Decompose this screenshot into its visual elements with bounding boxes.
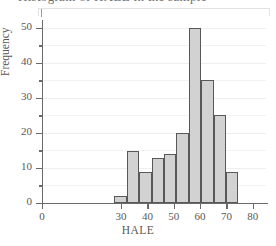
y-axis-tick-label: 20 (21, 125, 32, 137)
title-input-box (38, 8, 270, 16)
x-axis-tick (121, 204, 122, 209)
histogram-bar (176, 133, 188, 203)
y-axis-tick: 10 (36, 168, 42, 169)
y-axis-tick: 30 (36, 98, 42, 99)
y-axis-minor-tick (39, 185, 42, 186)
histogram-bar (189, 28, 201, 203)
x-axis-tick (200, 204, 201, 209)
x-axis-line (40, 203, 268, 204)
y-axis-minor-tick (39, 45, 42, 46)
y-axis-tick-label: 10 (21, 160, 32, 172)
x-axis-tick-label: 50 (168, 210, 179, 222)
clipped-title-text: Histogram of HALE in the sample (18, 0, 207, 5)
y-axis-minor-tick (39, 80, 42, 81)
y-axis-tick: 20 (36, 133, 42, 134)
x-axis-tick (226, 204, 227, 209)
x-axis-tick (253, 204, 254, 209)
gridline-major (42, 133, 266, 134)
plot-area (42, 22, 266, 203)
y-axis-tick-label: 50 (21, 20, 32, 32)
gridline-minor (42, 150, 266, 151)
y-axis-label: Frequency (0, 27, 11, 76)
histogram-bar (114, 196, 126, 203)
y-axis-tick-label: 40 (21, 55, 32, 67)
gridline-major (42, 63, 266, 64)
x-axis-tick (174, 204, 175, 209)
histogram-bar (152, 158, 164, 204)
y-axis-line (42, 20, 43, 205)
histogram-bar (201, 80, 213, 203)
x-axis-tick-label: 60 (195, 210, 206, 222)
y-axis-tick-label: 0 (27, 195, 33, 207)
y-axis-tick: 40 (36, 63, 42, 64)
histogram-bar (214, 115, 226, 203)
histogram-bar (226, 172, 238, 204)
histogram-bar (164, 154, 176, 203)
gridline-major (42, 98, 266, 99)
x-axis-tick-label: 70 (221, 210, 232, 222)
x-axis-tick-label: 30 (116, 210, 127, 222)
histogram-bar (139, 172, 151, 204)
x-axis-tick-label: 40 (142, 210, 153, 222)
text-caret (41, 9, 42, 17)
histogram-figure: Histogram of HALE in the sample Frequenc… (0, 0, 276, 246)
y-axis-minor-tick (39, 150, 42, 151)
gridline-minor (42, 80, 266, 81)
y-axis-tick-label: 30 (21, 90, 32, 102)
x-axis-tick-label: 0 (39, 210, 45, 222)
gridline-minor (42, 115, 266, 116)
x-axis-label: HALE (0, 224, 276, 236)
gridline-minor (42, 45, 266, 46)
gridline-major (42, 28, 266, 29)
y-axis-tick: 50 (36, 28, 42, 29)
histogram-bar (127, 151, 139, 204)
x-axis-tick-label: 80 (247, 210, 258, 222)
x-axis-tick (147, 204, 148, 209)
y-axis-minor-tick (39, 115, 42, 116)
x-axis-tick (42, 204, 43, 209)
